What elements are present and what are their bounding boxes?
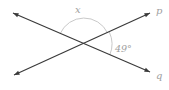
arrowhead-q-upper-left (13, 13, 19, 17)
angle-diagram-canvas: x 49° p q (0, 0, 169, 90)
right-angle-measure-label: 49° (114, 43, 132, 54)
top-angle-arc (60, 18, 107, 34)
arrowhead-q-lower-right (144, 68, 150, 72)
ray-p-label: p (156, 5, 163, 16)
top-angle-label: x (75, 4, 81, 15)
arrowhead-p-upper-right (144, 13, 150, 17)
arrowhead-p-lower-left (14, 71, 20, 75)
right-angle-arc (109, 32, 112, 55)
ray-q-label: q (156, 70, 162, 81)
intersecting-lines-diagram: x 49° p q (0, 0, 169, 90)
